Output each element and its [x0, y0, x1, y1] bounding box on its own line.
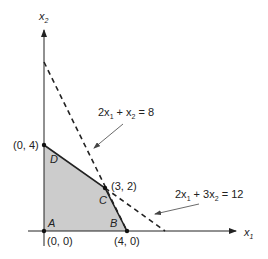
vertex-label-d: D — [50, 153, 58, 165]
vertex-coord-d: (0, 4) — [13, 139, 39, 151]
constraint-label-c2: 2x1 + 3x2 = 12 — [175, 188, 243, 202]
constraint-label-c1: 2x1 + x2 = 8 — [98, 106, 154, 120]
vertex-label-b: B — [110, 217, 117, 229]
vertex-dot-c — [103, 186, 107, 190]
lp-diagram: x2 x1 2x1 + x2 = 8 2x1 + 3x2 = 12 A B C … — [0, 0, 268, 259]
vertex-dot-d — [42, 143, 46, 147]
vertex-coord-a: (0, 0) — [47, 235, 73, 247]
vertex-label-a: A — [47, 217, 55, 229]
vertex-label-c: C — [99, 194, 107, 206]
callout-arrow-c2 — [155, 204, 199, 214]
vertex-coord-c: (3, 2) — [111, 180, 137, 192]
vertex-dot-a — [42, 229, 46, 233]
x1-axis-label: x1 — [243, 226, 254, 240]
vertex-coord-b: (4, 0) — [114, 235, 140, 247]
vertex-dot-b — [125, 229, 129, 233]
callout-arrow-c1 — [94, 124, 123, 148]
x2-axis-label: x2 — [38, 10, 49, 24]
